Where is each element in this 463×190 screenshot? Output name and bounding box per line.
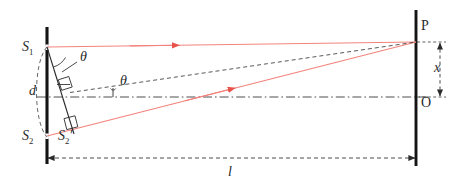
label-slit-1: S1 — [22, 40, 33, 56]
label-slit-separation-d: d — [29, 84, 36, 98]
label-point-p: P — [421, 19, 429, 33]
label-slit-2-subscript: 2 — [29, 136, 33, 146]
label-slit-1-letter: S — [22, 39, 29, 54]
ray-from-slit-1 — [47, 42, 416, 47]
right-angle-mark-upper — [58, 77, 72, 91]
label-slit-2-letter: S — [22, 128, 29, 143]
label-foot-point-prime: ′ — [69, 128, 72, 143]
ray-from-slit-2-arrow — [185, 89, 232, 101]
label-point-o: O — [421, 96, 431, 110]
label-screen-distance-l: l — [228, 165, 232, 179]
label-theta-at-axis: θ — [120, 74, 127, 88]
label-foot-point-letter: S — [58, 128, 65, 143]
label-theta-at-slit: θ — [80, 50, 87, 64]
diagram-canvas — [0, 0, 463, 190]
label-slit-2: S2 — [22, 129, 33, 145]
theta-angle-leader-top — [62, 62, 77, 72]
label-slit-1-subscript: 1 — [29, 47, 33, 57]
path-difference-line — [47, 47, 74, 134]
theta-angle-arc-top — [54, 58, 66, 68]
slit-separation-brace — [37, 47, 48, 137]
ray-from-slit-1-arrow — [130, 45, 176, 46]
label-fringe-position-x: x — [434, 61, 440, 75]
physics-diagram: S1 S2 S2′ d θ θ P O x l — [0, 0, 463, 190]
label-foot-point-s2-prime: S2′ — [58, 129, 72, 145]
